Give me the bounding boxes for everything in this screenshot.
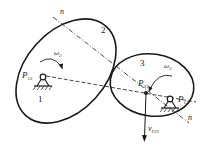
omega3-rotation-arrow: [149, 75, 173, 92]
link-2-body: [0, 0, 136, 142]
link-2-label: 2: [101, 25, 106, 35]
line-of-centers: [46, 76, 196, 102]
velocity-arrow: [142, 93, 147, 142]
p23-label: P23: [137, 78, 149, 89]
p12-label: P12: [21, 70, 33, 81]
link-3-label: 3: [140, 58, 145, 68]
omega3-label: ω3: [164, 62, 172, 71]
velocity-label: vP23: [148, 124, 160, 134]
p13-label: P13: [177, 94, 189, 105]
normal-label-bottom: n: [188, 113, 192, 122]
mechanism-diagram: n n 2 3 1 ω2 ω3 P12 P23 P13 vP23: [0, 0, 208, 146]
omega2-label: ω2: [54, 49, 62, 58]
omega2-rotation-arrow: [40, 59, 63, 70]
link-1-label: 1: [38, 94, 43, 104]
normal-label-top: n: [60, 7, 64, 16]
